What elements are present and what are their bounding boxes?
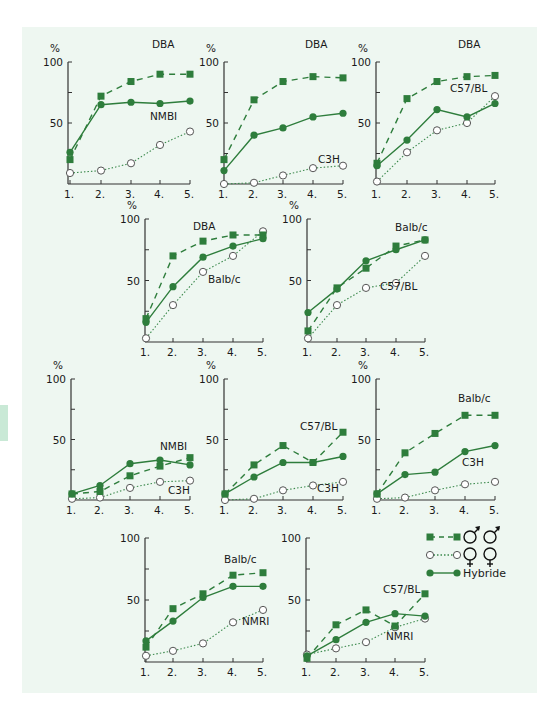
filled-circle-marker: [126, 460, 133, 467]
x-tick-label: 5.: [337, 504, 347, 516]
x-tick-label: 5.: [489, 188, 499, 200]
open-circle-marker: [126, 484, 133, 491]
open-circle-marker: [229, 619, 236, 626]
square-marker: [427, 534, 434, 541]
square-marker: [363, 606, 370, 613]
filled-circle-marker: [199, 254, 206, 261]
filled-circle-marker: [461, 448, 468, 455]
filled-circle-marker: [491, 100, 498, 107]
filled-circle-marker: [142, 637, 149, 644]
y-tick-label: 100: [351, 373, 371, 385]
x-tick-label: 3.: [360, 346, 370, 358]
series-line-c57bl: [307, 594, 425, 658]
open-circle-marker: [401, 494, 408, 501]
y-axis-unit: %: [50, 42, 60, 54]
x-tick-label: 4.: [227, 346, 237, 358]
x-tick-label: 3.: [360, 666, 370, 678]
open-circle-marker: [229, 252, 236, 259]
open-circle-marker: [309, 165, 316, 172]
x-tick-label: 4.: [154, 188, 164, 200]
x-tick-label: 4.: [459, 504, 469, 516]
strain-label: DBA: [152, 38, 175, 50]
square-marker: [492, 412, 499, 419]
x-tick-label: 5.: [184, 188, 194, 200]
filled-circle-marker: [199, 594, 206, 601]
y-tick-label: 50: [288, 594, 301, 606]
y-axis-unit: %: [358, 42, 368, 54]
filled-circle-marker: [421, 613, 428, 620]
filled-circle-marker: [391, 610, 398, 617]
open-circle-marker: [259, 606, 266, 613]
square-marker: [230, 572, 237, 579]
strain-label: NMBI: [160, 440, 187, 452]
square-marker: [170, 605, 177, 612]
square-marker: [98, 93, 105, 100]
line-chart-9: 100501.2.3.4.5.Balb/cNMRI: [120, 532, 269, 678]
open-circle-marker: [250, 179, 257, 186]
filled-circle-marker: [142, 319, 149, 326]
square-marker: [170, 252, 177, 259]
filled-circle-marker: [431, 469, 438, 476]
y-tick-label: 100: [46, 373, 66, 385]
filled-circle-marker: [127, 99, 134, 106]
x-tick-label: 1.: [371, 188, 381, 200]
open-circle-marker: [220, 180, 227, 187]
y-tick-label: 50: [127, 275, 140, 287]
square-marker: [280, 78, 287, 85]
open-circle-marker: [279, 487, 286, 494]
open-circle-marker: [426, 551, 433, 558]
open-circle-marker: [421, 252, 428, 259]
filled-circle-marker: [333, 286, 340, 293]
filled-circle-marker: [279, 459, 286, 466]
x-tick-label: 1.: [140, 666, 150, 678]
x-tick-label: 1.: [302, 346, 312, 358]
female-symbol-icon: [484, 548, 496, 560]
strain-label: NMRI: [242, 615, 269, 627]
x-tick-label: 5.: [337, 188, 347, 200]
y-tick-label: 50: [206, 434, 219, 446]
x-tick-label: 2.: [248, 504, 258, 516]
filled-circle-marker: [421, 236, 428, 243]
filled-circle-marker: [169, 283, 176, 290]
square-marker: [402, 449, 409, 456]
square-marker: [260, 569, 267, 576]
open-circle-marker: [304, 335, 311, 342]
strain-label: C57/BL: [450, 82, 487, 94]
square-marker: [333, 621, 340, 628]
x-tick-label: 4.: [461, 188, 471, 200]
y-tick-label: 100: [120, 213, 140, 225]
x-tick-label: 5.: [419, 666, 429, 678]
filled-circle-marker: [339, 110, 346, 117]
filled-circle-marker: [186, 97, 193, 104]
y-tick-label: 50: [127, 594, 140, 606]
strain-label: C57/BL: [380, 280, 417, 292]
open-circle-marker: [491, 93, 498, 100]
x-tick-label: 1.: [64, 188, 74, 200]
x-tick-label: 1.: [66, 504, 76, 516]
open-circle-marker: [362, 284, 369, 291]
square-marker: [432, 430, 439, 437]
y-tick-label: 100: [120, 532, 140, 544]
filled-circle-marker: [426, 569, 433, 576]
filled-circle-marker: [392, 246, 399, 253]
line-chart-8: 10050%1.2.3.4.5.Balb/cC3H: [351, 359, 499, 516]
y-axis-unit: %: [206, 359, 216, 371]
line-chart-6: 10050%1.2.3.4.5.NMBIC3H: [46, 359, 194, 516]
square-marker: [128, 78, 135, 85]
open-circle-marker: [431, 487, 438, 494]
x-tick-label: 2.: [167, 666, 177, 678]
square-marker: [305, 327, 312, 334]
line-chart-7: 10050%1.2.3.4.5.C57/BLC3H: [199, 359, 347, 516]
open-circle-marker: [169, 647, 176, 654]
square-marker: [464, 73, 471, 80]
square-marker: [422, 590, 429, 597]
square-marker: [392, 623, 399, 630]
y-tick-label: 100: [199, 373, 219, 385]
y-tick-label: 50: [53, 434, 66, 446]
x-tick-label: 3.: [277, 188, 287, 200]
open-circle-marker: [97, 167, 104, 174]
filled-circle-marker: [229, 583, 236, 590]
filled-circle-marker: [362, 619, 369, 626]
square-marker: [404, 95, 411, 102]
x-tick-label: 3.: [431, 188, 441, 200]
